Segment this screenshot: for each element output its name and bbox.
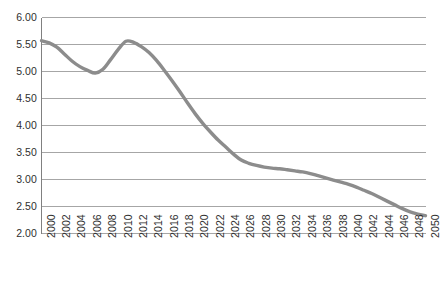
x-tick-label: 2038 <box>338 214 349 238</box>
x-tick-label: 2032 <box>291 214 302 238</box>
x-tick-label: 2036 <box>322 214 333 238</box>
x-tick-label: 2002 <box>61 214 72 238</box>
x-tick-label: 2044 <box>384 214 395 238</box>
x-tick-label: 2026 <box>245 214 256 238</box>
x-tick-label: 2020 <box>199 214 210 238</box>
x-tick-label: 2048 <box>414 214 425 238</box>
x-tick-label: 2028 <box>261 214 272 238</box>
x-tick-label: 2006 <box>92 214 103 238</box>
x-tick-label: 2016 <box>169 214 180 238</box>
x-tick-label: 2022 <box>215 214 226 238</box>
x-tick-label: 2050 <box>430 214 441 238</box>
x-tick-label: 2030 <box>276 214 287 238</box>
x-tick-label: 2024 <box>230 214 241 238</box>
x-tick-label: 2012 <box>138 214 149 238</box>
x-tick-label: 2008 <box>107 214 118 238</box>
x-tick-label: 2018 <box>184 214 195 238</box>
x-tick-label: 2042 <box>368 214 379 238</box>
x-tick-label: 2034 <box>307 214 318 238</box>
x-tick-label: 2046 <box>399 214 410 238</box>
x-tick-label: 2004 <box>76 214 87 238</box>
x-tick-label: 2014 <box>153 214 164 238</box>
x-tick-label: 2010 <box>123 214 134 238</box>
x-tick-label: 2000 <box>46 214 57 238</box>
x-tick-label: 2040 <box>353 214 364 238</box>
